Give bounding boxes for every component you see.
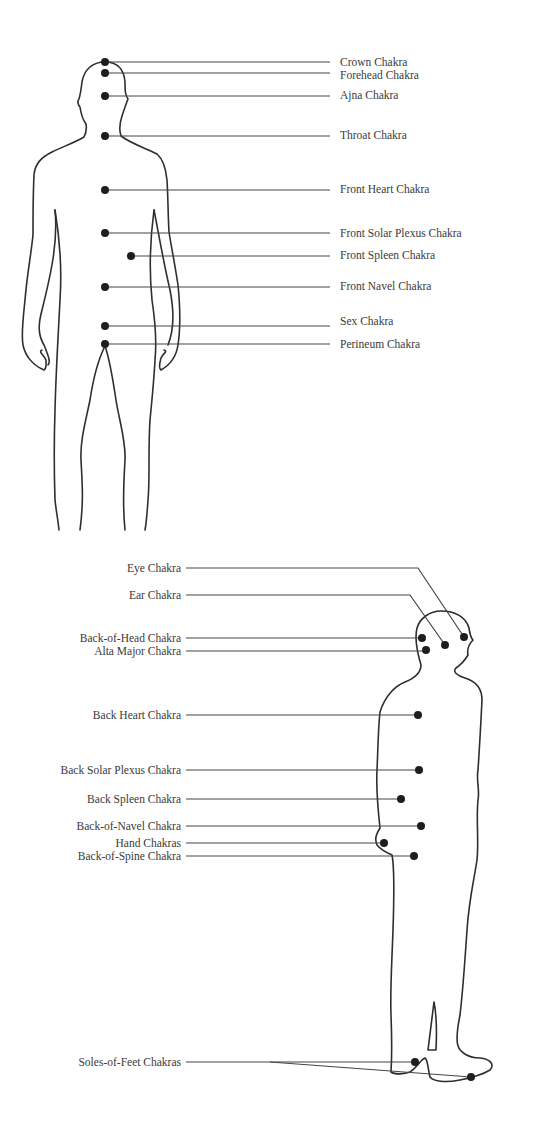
label-crown-chakra: Crown Chakra [340, 55, 407, 69]
label-front-navel-chakra: Front Navel Chakra [340, 279, 431, 293]
label-back-of-navel-chakra: Back-of-Navel Chakra [77, 819, 181, 833]
label-back-solar-plexus-chakra: Back Solar Plexus Chakra [61, 763, 181, 777]
label-sex-chakra: Sex Chakra [340, 314, 393, 328]
front-leader-lines [105, 62, 330, 344]
label-soles-of-feet-chakras: Soles-of-Feet Chakras [78, 1055, 181, 1069]
side-body-outline [376, 611, 492, 1082]
label-front-heart-chakra: Front Heart Chakra [340, 182, 429, 196]
label-back-of-spine-chakra: Back-of-Spine Chakra [78, 849, 181, 863]
back-leader-lines [186, 568, 471, 1077]
front-chakra-dots [101, 58, 135, 348]
label-ear-chakra: Ear Chakra [129, 588, 181, 602]
label-back-of-head-chakra: Back-of-Head Chakra [80, 631, 181, 645]
chakra-diagram: Crown Chakra Forehead Chakra Ajna Chakra… [0, 0, 551, 1132]
label-ajna-chakra: Ajna Chakra [340, 88, 398, 102]
label-front-spleen-chakra: Front Spleen Chakra [340, 248, 435, 262]
label-back-spleen-chakra: Back Spleen Chakra [87, 792, 181, 806]
label-hand-chakras: Hand Chakras [116, 836, 181, 850]
label-forehead-chakra: Forehead Chakra [340, 68, 419, 82]
chakra-figure-drawing [0, 0, 551, 1132]
label-eye-chakra: Eye Chakra [127, 561, 181, 575]
front-body-outline [22, 62, 180, 530]
label-throat-chakra: Throat Chakra [340, 128, 407, 142]
label-perineum-chakra: Perineum Chakra [340, 337, 420, 351]
label-back-heart-chakra: Back Heart Chakra [93, 708, 181, 722]
label-alta-major-chakra: Alta Major Chakra [94, 644, 181, 658]
label-front-solar-plexus-chakra: Front Solar Plexus Chakra [340, 226, 462, 240]
